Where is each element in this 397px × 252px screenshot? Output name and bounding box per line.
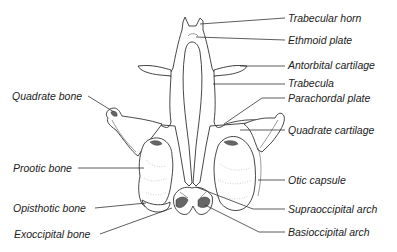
- otic-capsule-left: [139, 138, 173, 208]
- label-parachordal-plate: Parachordal plate: [288, 92, 370, 104]
- labels-right: Trabecular horn Ethmoid plate Antorbital…: [287, 12, 377, 238]
- label-basioccipital-arch: Basioccipital arch: [288, 226, 370, 238]
- label-quadrate-cartilage: Quadrate cartilage: [288, 124, 375, 136]
- quadrate-right: [244, 113, 284, 152]
- label-exoccipital-bone: Exoccipital bone: [14, 228, 91, 240]
- label-prootic-bone: Prootic bone: [13, 162, 72, 174]
- antorbital-right: [214, 65, 247, 76]
- label-supraoccipital-arch: Supraoccipital arch: [288, 203, 377, 215]
- labels-left: Quadrate bone Prootic bone Opisthotic bo…: [12, 90, 91, 240]
- antorbital-left: [138, 65, 171, 76]
- otic-capsule-right: [214, 136, 256, 210]
- label-otic-capsule: Otic capsule: [288, 174, 346, 186]
- label-antorbital-cartilage: Antorbital cartilage: [287, 59, 375, 71]
- label-quadrate-bone: Quadrate bone: [12, 90, 82, 102]
- label-ethmoid-plate: Ethmoid plate: [288, 34, 352, 46]
- label-trabecular-horn: Trabecular horn: [288, 12, 362, 24]
- label-opisthotic-bone: Opisthotic bone: [13, 202, 86, 214]
- skull-drawing: [106, 17, 284, 215]
- chondrocranium-diagram: Trabecular horn Ethmoid plate Antorbital…: [0, 0, 397, 252]
- label-trabecula: Trabecula: [288, 77, 334, 89]
